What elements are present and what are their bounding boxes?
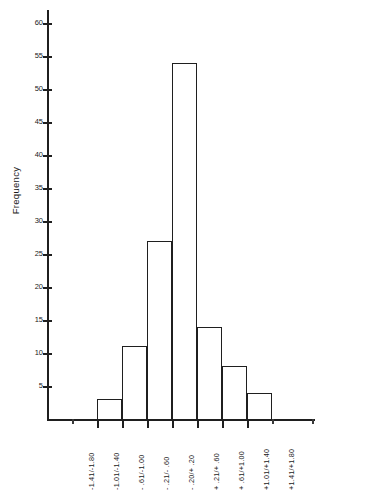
y-tick-mark: [43, 287, 52, 289]
y-tick-label: 5: [39, 381, 43, 390]
y-tick-label: 15: [35, 315, 43, 324]
y-tick-mark: [43, 23, 52, 25]
y-tick-mark: [43, 221, 52, 223]
y-tick-label: 45: [35, 117, 43, 126]
x-tick-label-text: + .21/+ .60: [213, 453, 221, 490]
y-axis-label: Frequency: [10, 146, 21, 236]
x-tick-mark: [222, 419, 224, 428]
y-tick-label: 35: [35, 183, 43, 192]
x-tick-mark: [197, 419, 199, 428]
histogram-bar: [122, 346, 147, 419]
x-tick-mark: [72, 419, 74, 424]
histogram-bar: [222, 366, 247, 419]
x-tick-label-text: - .21/- .60: [163, 457, 171, 490]
histogram-bar: [247, 393, 272, 419]
x-tick-label-text: +1.01/+1.40: [263, 449, 271, 490]
x-tick-label-text: + .61/+1.00: [238, 451, 246, 490]
x-tick-label-text: -1.01/-1.40: [113, 453, 121, 490]
x-tick-mark: [247, 419, 249, 428]
y-tick-mark: [43, 89, 52, 91]
x-tick-label-text: +1.41/+1.80: [288, 449, 296, 490]
y-tick-mark: [43, 254, 52, 256]
x-tick-mark: [312, 419, 314, 424]
y-axis-line: [47, 10, 49, 421]
y-tick-label: 20: [35, 282, 43, 291]
y-tick-mark: [43, 353, 52, 355]
x-axis-line: [47, 419, 315, 421]
y-tick-label: 10: [35, 348, 43, 357]
y-tick-label: 60: [35, 18, 43, 27]
x-tick-mark: [272, 419, 274, 424]
x-tick-label-text: - .61/-1.00: [138, 455, 146, 490]
x-tick-mark: [172, 419, 174, 428]
y-tick-mark: [43, 56, 52, 58]
y-tick-mark: [43, 155, 52, 157]
y-tick-label: 40: [35, 150, 43, 159]
y-tick-label: 50: [35, 84, 43, 93]
x-tick-mark: [97, 419, 99, 428]
y-tick-mark: [43, 188, 52, 190]
y-tick-label: 25: [35, 249, 43, 258]
y-tick-label: 55: [35, 51, 43, 60]
y-tick-label: 30: [35, 216, 43, 225]
y-tick-mark: [43, 320, 52, 322]
histogram-bar: [97, 399, 122, 419]
x-tick-label-text: -1.41/-1.80: [88, 453, 96, 490]
plot-area: 51015202530354045505560 -1.41/-1.80-1.01…: [47, 10, 315, 420]
histogram-bar: [172, 63, 197, 419]
x-tick-label-text: - .20/+ .20: [188, 455, 196, 490]
y-tick-mark: [43, 122, 52, 124]
histogram-bar: [197, 327, 222, 419]
y-tick-mark: [43, 386, 52, 388]
x-tick-mark: [122, 419, 124, 428]
histogram-bar: [147, 241, 172, 419]
x-tick-mark: [147, 419, 149, 428]
